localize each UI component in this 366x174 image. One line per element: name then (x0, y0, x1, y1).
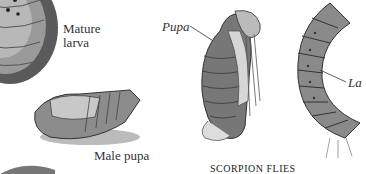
label-line: larva (63, 36, 101, 50)
larva-partial-bottom-illustration (0, 160, 55, 174)
figure-caption: SCORPION FLIES (210, 163, 296, 174)
label-line: Mature (63, 22, 101, 36)
mature-larva-label: Mature larva (63, 22, 101, 50)
male-pupa-illustration (30, 82, 145, 150)
pupa-illustration (190, 6, 280, 146)
mature-larva-illustration (0, 0, 60, 90)
larva-label: La (348, 76, 362, 90)
male-pupa-label: Male pupa (94, 149, 149, 163)
larva-leader-line (320, 70, 350, 84)
pupa-label: Pupa (162, 20, 189, 34)
